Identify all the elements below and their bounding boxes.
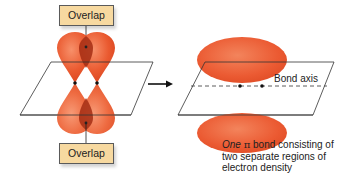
overlap-label-top: Overlap xyxy=(59,5,114,26)
nucleus-right-2 xyxy=(260,84,264,88)
nucleus-left-1 xyxy=(73,81,77,85)
caption-line-3: electron density xyxy=(222,162,334,174)
caption-line-1-rest: bond consisting of xyxy=(253,139,334,150)
pi-symbol: π xyxy=(244,139,251,150)
upper-p-lobes xyxy=(57,32,115,83)
pointer-tip-bottom xyxy=(85,122,88,125)
caption-line-2: two separate regions of xyxy=(222,151,334,163)
right-panel xyxy=(178,37,334,153)
overlap-label-bottom: Overlap xyxy=(59,143,114,164)
caption-italic-word: One xyxy=(222,139,241,150)
left-panel xyxy=(20,25,153,143)
nucleus-right-1 xyxy=(238,84,242,88)
pi-bond-caption: One π bond consisting of two separate re… xyxy=(222,139,334,174)
right-arrow-icon xyxy=(148,81,173,88)
pointer-tip-top xyxy=(85,46,88,49)
bond-axis-label: Bond axis xyxy=(274,73,318,84)
nucleus-left-2 xyxy=(95,81,99,85)
caption-line-1: One π bond consisting of xyxy=(222,139,334,151)
